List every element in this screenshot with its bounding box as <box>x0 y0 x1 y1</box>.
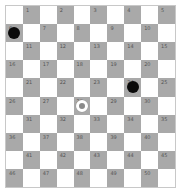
square-21[interactable]: 21 <box>23 78 40 96</box>
light-square <box>158 60 175 78</box>
square-48[interactable]: 48 <box>74 169 91 187</box>
square-25[interactable]: 25 <box>158 78 175 96</box>
light-square <box>158 97 175 115</box>
square-number-label: 42 <box>60 153 66 158</box>
square-number-label: 19 <box>110 62 116 67</box>
light-square <box>40 6 57 24</box>
light-square <box>23 97 40 115</box>
square-26[interactable]: 26 <box>6 97 23 115</box>
square-30[interactable]: 30 <box>141 97 158 115</box>
square-31[interactable]: 31 <box>23 115 40 133</box>
square-3[interactable]: 3 <box>90 6 107 24</box>
square-number-label: 34 <box>127 117 133 122</box>
light-square <box>124 60 141 78</box>
light-square <box>6 42 23 60</box>
square-29[interactable]: 29 <box>107 97 124 115</box>
square-13[interactable]: 13 <box>90 42 107 60</box>
square-41[interactable]: 41 <box>23 151 40 169</box>
square-number-label: 48 <box>77 171 83 176</box>
square-number-label: 35 <box>161 117 167 122</box>
light-square <box>158 133 175 151</box>
square-number-label: 11 <box>26 44 32 49</box>
square-15[interactable]: 15 <box>158 42 175 60</box>
square-17[interactable]: 17 <box>40 60 57 78</box>
light-square <box>23 24 40 42</box>
square-35[interactable]: 35 <box>158 115 175 133</box>
light-square <box>40 115 57 133</box>
square-24[interactable]: 24 <box>124 78 141 96</box>
square-1[interactable]: 1 <box>23 6 40 24</box>
square-number-label: 5 <box>161 8 164 13</box>
square-16[interactable]: 16 <box>6 60 23 78</box>
white-piece[interactable] <box>76 100 88 112</box>
square-number-label: 22 <box>60 80 66 85</box>
square-number-label: 4 <box>127 8 130 13</box>
square-number-label: 46 <box>9 171 15 176</box>
square-number-label: 37 <box>43 135 49 140</box>
square-14[interactable]: 14 <box>124 42 141 60</box>
square-37[interactable]: 37 <box>40 133 57 151</box>
light-square <box>107 115 124 133</box>
square-9[interactable]: 9 <box>107 24 124 42</box>
square-11[interactable]: 11 <box>23 42 40 60</box>
square-50[interactable]: 50 <box>141 169 158 187</box>
light-square <box>141 115 158 133</box>
black-piece[interactable] <box>8 27 20 39</box>
square-28[interactable]: 28 <box>74 97 91 115</box>
light-square <box>158 24 175 42</box>
square-number-label: 43 <box>93 153 99 158</box>
light-square <box>6 78 23 96</box>
square-34[interactable]: 34 <box>124 115 141 133</box>
square-2[interactable]: 2 <box>57 6 74 24</box>
square-32[interactable]: 32 <box>57 115 74 133</box>
square-number-label: 36 <box>9 135 15 140</box>
light-square <box>158 169 175 187</box>
square-number-label: 15 <box>161 44 167 49</box>
square-number-label: 9 <box>110 26 113 31</box>
square-22[interactable]: 22 <box>57 78 74 96</box>
square-33[interactable]: 33 <box>90 115 107 133</box>
square-4[interactable]: 4 <box>124 6 141 24</box>
square-12[interactable]: 12 <box>57 42 74 60</box>
square-number-label: 33 <box>93 117 99 122</box>
square-43[interactable]: 43 <box>90 151 107 169</box>
square-38[interactable]: 38 <box>74 133 91 151</box>
light-square <box>23 60 40 78</box>
light-square <box>23 169 40 187</box>
square-23[interactable]: 23 <box>90 78 107 96</box>
square-7[interactable]: 7 <box>40 24 57 42</box>
square-47[interactable]: 47 <box>40 169 57 187</box>
square-19[interactable]: 19 <box>107 60 124 78</box>
light-square <box>124 133 141 151</box>
square-44[interactable]: 44 <box>124 151 141 169</box>
light-square <box>141 42 158 60</box>
light-square <box>124 97 141 115</box>
square-8[interactable]: 8 <box>74 24 91 42</box>
square-42[interactable]: 42 <box>57 151 74 169</box>
square-49[interactable]: 49 <box>107 169 124 187</box>
square-number-label: 21 <box>26 80 32 85</box>
square-40[interactable]: 40 <box>141 133 158 151</box>
square-5[interactable]: 5 <box>158 6 175 24</box>
square-46[interactable]: 46 <box>6 169 23 187</box>
square-10[interactable]: 10 <box>141 24 158 42</box>
light-square <box>40 78 57 96</box>
light-square <box>107 151 124 169</box>
square-number-label: 18 <box>77 62 83 67</box>
square-27[interactable]: 27 <box>40 97 57 115</box>
square-number-label: 3 <box>93 8 96 13</box>
square-36[interactable]: 36 <box>6 133 23 151</box>
square-number-label: 41 <box>26 153 32 158</box>
light-square <box>6 115 23 133</box>
square-39[interactable]: 39 <box>107 133 124 151</box>
square-45[interactable]: 45 <box>158 151 175 169</box>
square-number-label: 20 <box>144 62 150 67</box>
square-18[interactable]: 18 <box>74 60 91 78</box>
black-piece[interactable] <box>127 81 139 93</box>
light-square <box>90 60 107 78</box>
square-number-label: 1 <box>26 8 29 13</box>
light-square <box>57 169 74 187</box>
square-number-label: 12 <box>60 44 66 49</box>
square-6[interactable]: 6 <box>6 24 23 42</box>
square-20[interactable]: 20 <box>141 60 158 78</box>
